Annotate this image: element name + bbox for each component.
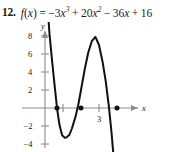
equals-sign: = xyxy=(37,7,49,19)
function-notation: f xyxy=(21,7,24,19)
y-tick-labels: 8 6 4 2 −2 −4 xyxy=(23,31,33,149)
y-tick-label-neg4: −4 xyxy=(23,139,33,149)
y-tick-label-6: 6 xyxy=(28,49,32,59)
x-axis-arrow xyxy=(131,105,138,111)
cubic-graph-svg: x y 8 6 4 2 −2 −4 3 xyxy=(0,22,196,152)
root-point-1 xyxy=(55,106,60,111)
y-axis: y xyxy=(40,22,48,148)
x-tick-label-3: 3 xyxy=(97,114,101,124)
x-axis-label: x xyxy=(141,103,146,113)
function-equation: f(x)=−3x3+20x2−36x+16 xyxy=(21,5,153,19)
y-tick-label-4: 4 xyxy=(28,67,33,77)
function-curve-main xyxy=(47,22,128,152)
y-tick-label-2: 2 xyxy=(28,85,32,95)
problem-statement: 12. f(x)=−3x3+20x2−36x+16 xyxy=(0,0,196,24)
y-axis-arrow xyxy=(42,30,48,38)
graph-figure: x y 8 6 4 2 −2 −4 3 xyxy=(0,22,196,152)
y-axis-label: y xyxy=(40,22,45,31)
problem-number: 12. xyxy=(0,6,21,18)
y-tick-label-8: 8 xyxy=(28,31,32,41)
root-point-2 xyxy=(79,106,84,111)
x-axis: x xyxy=(22,103,146,113)
y-tick-label-neg2: −2 xyxy=(23,121,32,131)
root-point-3 xyxy=(115,106,120,111)
